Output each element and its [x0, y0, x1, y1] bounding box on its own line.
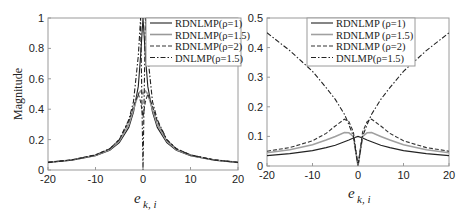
svg-text:e: e: [348, 185, 355, 201]
y-tick-label: 0.8: [29, 42, 44, 54]
x-tick-label: -10: [88, 173, 104, 185]
y-tick-label: 0.5: [248, 12, 263, 24]
left-y-axis-label: Magnitude: [11, 68, 25, 120]
x-tick-label: 10: [184, 173, 196, 185]
legend-label: RDNLMP(ρ=1): [175, 18, 243, 30]
y-tick-label: 0.2: [248, 101, 263, 113]
legend-label: DNLMP(ρ=1.5): [336, 53, 405, 65]
y-tick-label: 0.3: [248, 71, 263, 83]
left-legend: RDNLMP(ρ=1)RDNLMP(ρ=1.5)RDNLMP(ρ=2)DNLMP…: [146, 18, 251, 66]
figure: 00.20.40.60.81 -20-1001020 Magnitude e k…: [0, 0, 467, 219]
right-x-axis-label: e k, i: [348, 185, 370, 205]
right-legend: RDNLMP (ρ=1)RDNLMP (ρ=1.5)RDNLMP (ρ=2)DN…: [307, 18, 415, 66]
x-tick-label: 20: [232, 173, 244, 185]
svg-text:k, i: k, i: [143, 198, 156, 210]
legend-label: RDNLMP (ρ=2): [336, 41, 406, 53]
x-tick-label: 20: [443, 169, 455, 181]
left-x-axis-label: e k, i: [134, 190, 156, 210]
x-tick-label: -20: [259, 169, 275, 181]
svg-text:e: e: [134, 190, 141, 206]
svg-text:k, i: k, i: [357, 193, 370, 205]
legend-label: RDNLMP(ρ=2): [175, 41, 243, 53]
x-tick-label: 0: [355, 169, 361, 181]
y-tick-label: 0.1: [248, 130, 263, 142]
legend-label: DNLMP(ρ=1.5): [175, 53, 244, 65]
y-tick-label: 1: [38, 12, 44, 24]
legend-label: RDNLMP (ρ=1): [336, 18, 406, 30]
y-tick-label: 0.2: [29, 134, 44, 146]
y-tick-label: 0.4: [248, 42, 263, 54]
legend-label: RDNLMP(ρ=1.5): [175, 30, 251, 42]
right-chart: 00.10.20.30.40.5 -20-1001020 e k, i RDNL…: [248, 12, 455, 205]
legend-label: RDNLMP (ρ=1.5): [336, 30, 414, 42]
x-tick-label: -10: [305, 169, 321, 181]
y-tick-label: 0.6: [29, 73, 44, 85]
x-tick-label: -20: [40, 173, 56, 185]
y-tick-label: 0.4: [29, 103, 44, 115]
x-tick-label: 10: [397, 169, 409, 181]
left-chart: 00.20.40.60.81 -20-1001020 Magnitude e k…: [11, 12, 251, 210]
x-tick-label: 0: [140, 173, 146, 185]
